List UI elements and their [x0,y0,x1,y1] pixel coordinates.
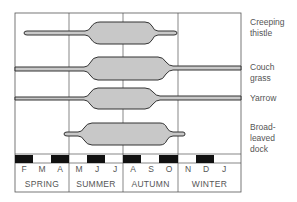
month-bar-apr [51,155,69,163]
month-bar-jun [87,155,105,163]
season-label-winter: WINTER [178,179,241,189]
month-label: A [124,164,142,174]
month-label: J [106,164,124,174]
month-label: S [142,164,160,174]
month-bar-dec [196,155,214,163]
season-label-spring: SPRING [15,179,69,189]
kite-creeping-thistle [24,22,177,44]
month-label: J [88,164,106,174]
season-label-summer: SUMMER [69,179,123,189]
label-line: thistle [250,28,285,39]
label-line: Couch grass [250,62,297,84]
month-label: O [160,164,178,174]
month-label: D [197,164,215,174]
label-creeping-thistle: Creeping thistle [250,17,285,39]
month-label: A [51,164,69,174]
month-label: M [33,164,51,174]
label-couch-grass: Couch grass [250,62,297,84]
month-bar-aug [123,155,141,163]
label-broad-leaved-dock: Broad-leaved dock [250,122,297,155]
kite-couch-grass [15,57,241,80]
label-yarrow: Yarrow [250,93,276,104]
season-label-autumn: AUTUMN [123,179,178,189]
kite-broad-leaved-dock [64,123,185,145]
month-bar-oct [159,155,178,163]
label-line: Broad-leaved [250,122,297,144]
month-label: M [70,164,88,174]
kite-yarrow [15,88,241,109]
month-label: J [215,164,233,174]
month-bar-feb [15,155,33,163]
month-label: N [179,164,197,174]
month-label: F [15,164,33,174]
label-line: dock [250,144,297,155]
label-line: Yarrow [250,93,276,104]
label-line: Creeping [250,17,285,28]
